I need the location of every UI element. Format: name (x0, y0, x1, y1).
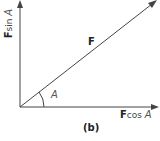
x-arrowhead-icon (151, 104, 159, 110)
y-component-bold: F (3, 31, 14, 38)
y-component-func: sin (4, 16, 14, 32)
x-component-bold: F (120, 109, 127, 120)
angle-arc (39, 92, 44, 107)
vector-f-arrowhead-icon (148, 0, 157, 8)
x-component-angle: A (145, 109, 152, 120)
vector-f-label: F (88, 36, 95, 47)
x-component-func: cos (127, 110, 145, 120)
figure-caption: (b) (83, 122, 99, 133)
x-component-label: Fcos A (120, 109, 152, 120)
y-component-angle: A (3, 9, 14, 16)
angle-label: A (51, 89, 58, 100)
vector-f-line (20, 4, 152, 107)
y-component-label: Fsin A (1, 4, 15, 44)
y-arrowhead-icon (17, 0, 23, 8)
